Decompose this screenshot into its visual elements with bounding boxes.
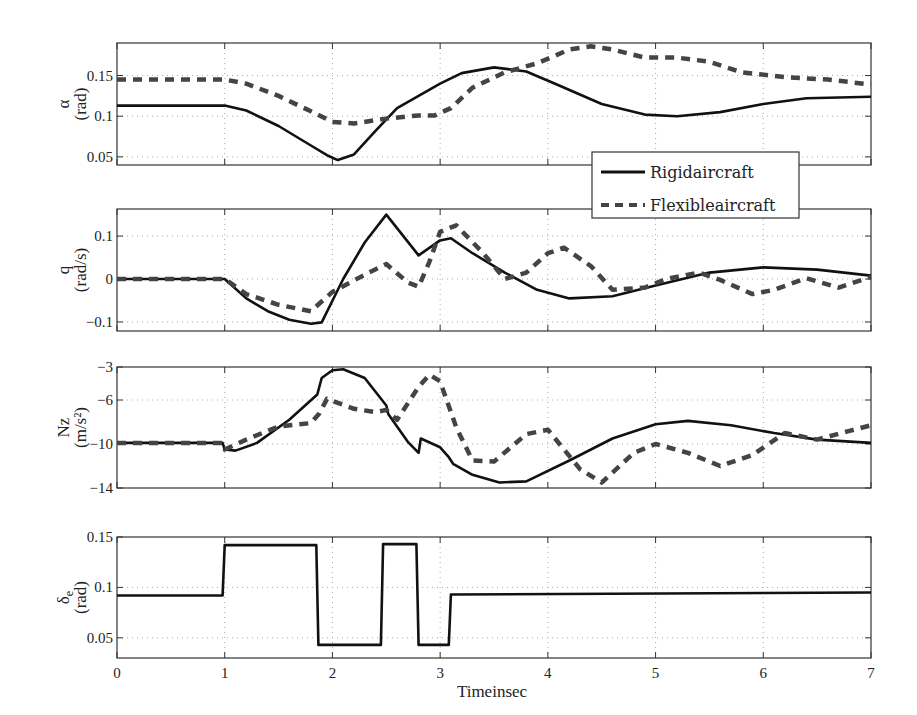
y-tick-label: 0 bbox=[106, 271, 114, 287]
y-tick-label: 0.1 bbox=[94, 228, 113, 244]
x-tick-label: 2 bbox=[329, 665, 337, 681]
subplot-delta_e: 0.050.10.1501234567δe(rad) bbox=[54, 529, 875, 681]
x-tick-label: 0 bbox=[113, 665, 121, 681]
y-axis-unit: (rad/s) bbox=[71, 248, 90, 292]
y-tick-label: 0.1 bbox=[94, 579, 113, 595]
y-tick-label: −0.1 bbox=[86, 314, 113, 330]
subplot-q: −0.100.1q(rad/s) bbox=[54, 209, 871, 331]
y-axis-unit: (rad) bbox=[71, 87, 90, 120]
y-tick-label: 0.15 bbox=[87, 68, 113, 84]
figure: 0.050.10.15α(rad)−0.100.1q(rad/s)−14−10−… bbox=[0, 0, 917, 715]
x-tick-label: 3 bbox=[436, 665, 444, 681]
legend-label-rigid: Rigidaircraft bbox=[650, 163, 754, 182]
y-axis-unit: (rad) bbox=[71, 581, 90, 614]
x-tick-label: 5 bbox=[652, 665, 660, 681]
axes-box bbox=[117, 209, 871, 331]
y-tick-label: −14 bbox=[90, 480, 114, 496]
x-tick-label: 1 bbox=[221, 665, 229, 681]
axes-box bbox=[117, 537, 871, 658]
y-axis-unit: (m/s²) bbox=[71, 407, 90, 448]
x-tick-label: 4 bbox=[544, 665, 552, 681]
series-flexible-line bbox=[117, 46, 871, 123]
y-tick-label: 0.05 bbox=[87, 630, 113, 646]
y-tick-label: −6 bbox=[97, 392, 113, 408]
series-rigid-line bbox=[117, 544, 871, 645]
series-rigid-line bbox=[117, 369, 871, 482]
x-tick-label: 6 bbox=[760, 665, 768, 681]
x-tick-label: 7 bbox=[867, 665, 875, 681]
subplots: 0.050.10.15α(rad)−0.100.1q(rad/s)−14−10−… bbox=[54, 43, 875, 681]
y-tick-label: −3 bbox=[97, 359, 113, 375]
x-axis-label: Timeinsec bbox=[457, 682, 528, 701]
legend: Rigidaircraft Flexibleaircraft bbox=[592, 152, 799, 218]
y-tick-label: −10 bbox=[90, 436, 113, 452]
y-tick-label: 0.1 bbox=[94, 108, 113, 124]
axes-box bbox=[117, 367, 871, 488]
series-flexible-line bbox=[117, 375, 871, 483]
y-tick-label: 0.05 bbox=[87, 149, 113, 165]
legend-label-flexible: Flexibleaircraft bbox=[650, 196, 776, 215]
y-tick-label: 0.15 bbox=[87, 529, 113, 545]
subplot-alpha: 0.050.10.15α(rad) bbox=[54, 43, 871, 165]
subplot-nz: −14−10−6−3Nz(m/s²) bbox=[54, 359, 871, 496]
